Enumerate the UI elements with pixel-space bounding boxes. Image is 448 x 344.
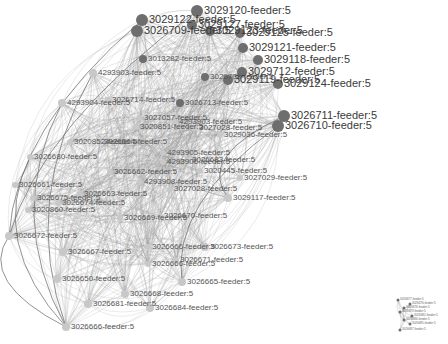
node-label: 3026662-feeder:5 <box>114 168 177 176</box>
node-label: 3026667-feeder:5 <box>68 248 131 256</box>
graph-node[interactable] <box>145 261 151 267</box>
graph-node[interactable] <box>176 99 184 107</box>
graph-node[interactable] <box>67 139 73 145</box>
node-label: 3029036-feeder:5 <box>224 131 287 139</box>
graph-node[interactable] <box>139 55 147 63</box>
node-label: 3026680-feeder:5 <box>34 153 97 161</box>
graph-node[interactable] <box>197 168 203 174</box>
graph-node[interactable] <box>237 175 243 181</box>
graph-node[interactable] <box>253 55 263 65</box>
node-label: 3026673-feeder:5 <box>210 243 273 251</box>
node-label: 3026663-feeder:5 <box>84 190 147 198</box>
node-label: 3026650-feeder:5 <box>62 275 125 283</box>
graph-node[interactable] <box>131 25 143 37</box>
graph-node[interactable] <box>12 182 18 188</box>
graph-node[interactable] <box>137 179 143 185</box>
node-label: 3026684-feeder:5 <box>155 304 218 312</box>
graph-node[interactable] <box>27 154 33 160</box>
node-label: 3026666-feeder:5 <box>152 260 215 268</box>
node-label: 3026687-feeder:5 <box>402 328 426 331</box>
graph-node[interactable] <box>137 115 143 121</box>
node-label: 3013282-feeder:5 <box>148 55 211 63</box>
node-label: 3027029-feeder:5 <box>244 174 307 182</box>
node-label: 3026672-feeder:5 <box>14 232 77 240</box>
graph-node[interactable] <box>160 159 166 165</box>
graph-node[interactable] <box>107 169 113 175</box>
graph-node[interactable] <box>167 186 173 192</box>
node-label: 3020860-feeder:5 <box>32 206 95 214</box>
graph-node[interactable] <box>121 290 129 298</box>
node-label: 3026666-feeder:5 <box>71 323 134 331</box>
node-label: 3029118-feeder:5 <box>264 54 350 65</box>
graph-node[interactable] <box>238 43 248 53</box>
graph-node[interactable] <box>201 73 209 81</box>
node-label: 3027028-feeder:5 <box>174 185 237 193</box>
node-label: 3026710-feeder:5 <box>285 120 372 131</box>
graph-node[interactable] <box>59 248 67 256</box>
node-label: 3026714-feeder:5 <box>112 96 175 104</box>
graph-node[interactable] <box>89 69 97 77</box>
graph-node[interactable] <box>117 215 123 221</box>
node-label: 3026685-feeder:5 <box>412 322 436 325</box>
graph-node[interactable] <box>217 132 223 138</box>
graph-node[interactable] <box>62 323 70 331</box>
graph-node[interactable] <box>30 195 36 201</box>
graph-node[interactable] <box>25 207 31 213</box>
graph-node[interactable] <box>160 150 166 156</box>
graph-node[interactable] <box>224 194 232 202</box>
node-label: 4293906-feeder:5 <box>167 158 230 166</box>
node-label: 3026670-feeder:5 <box>164 212 227 220</box>
graph-node[interactable] <box>178 278 186 286</box>
node-label: 3029124-feeder:5 <box>284 78 371 89</box>
graph-node[interactable] <box>133 124 139 130</box>
node-label: 3026664-feeder:5 <box>104 138 167 146</box>
node-label: 3026713-feeder:5 <box>185 99 248 107</box>
node-label: 3026681-feeder:5 <box>93 300 156 308</box>
node-label: 3029121-feeder:5 <box>249 42 336 53</box>
graph-node[interactable] <box>145 244 151 250</box>
node-label: 3026668-feeder:5 <box>130 290 193 298</box>
graph-node[interactable] <box>53 275 61 283</box>
node-label: 3029117-feeder:5 <box>233 194 296 202</box>
graph-node[interactable] <box>5 232 13 240</box>
node-label: 4293903-feeder:5 <box>98 69 161 77</box>
node-label: 3026665-feeder:5 <box>187 278 250 286</box>
node-label: 3029125-feeder:5 <box>246 27 333 38</box>
node-label: 3026661-feeder:5 <box>19 181 82 189</box>
node-label: 3026666-feeder:5 <box>152 243 215 251</box>
graph-node[interactable] <box>58 99 66 107</box>
graph-node[interactable] <box>84 300 92 308</box>
